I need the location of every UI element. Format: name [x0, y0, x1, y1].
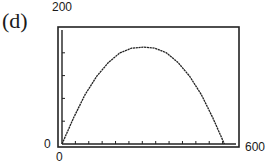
plot-frame [58, 27, 239, 147]
plot-area [0, 0, 274, 168]
parabola-curve [62, 47, 224, 144]
